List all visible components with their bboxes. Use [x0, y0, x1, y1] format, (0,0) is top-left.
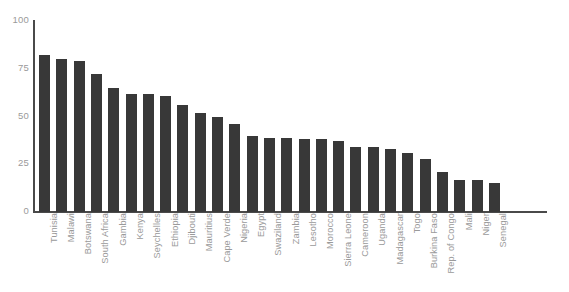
x-axis-label: Nigeria: [239, 213, 250, 243]
bar: [108, 88, 119, 212]
bar: [281, 138, 292, 212]
x-axis-label: Malawi: [66, 213, 77, 242]
bar: [212, 117, 223, 213]
bar: [160, 96, 171, 213]
x-axis-label: Burkina Faso: [429, 213, 440, 268]
x-axis-label: Senegal: [498, 213, 509, 247]
x-axis-label: Mali: [464, 213, 475, 230]
bar: [247, 136, 258, 212]
bar: [74, 61, 85, 212]
y-tick-label-0: 0: [3, 206, 29, 216]
bar: [195, 113, 206, 212]
x-axis-label: Zambia: [291, 213, 302, 244]
bar: [264, 138, 275, 212]
bar: [350, 147, 361, 212]
bar: [368, 147, 379, 212]
x-axis-label: Gambia: [118, 213, 129, 246]
bar: [316, 139, 327, 212]
x-axis-label: Madagascar: [395, 213, 406, 265]
bar: [126, 94, 137, 212]
y-tick-label-100: 100: [3, 15, 29, 25]
bar: [177, 105, 188, 212]
bar-chart: 0255075100 TunisiaMalawiBotswanaSouth Af…: [0, 0, 569, 292]
x-axis-label: Seychelles: [152, 213, 163, 258]
x-axis-label: Djibouti: [187, 213, 198, 244]
bar: [489, 183, 500, 212]
x-axis-label: Rep. of Congo: [446, 213, 457, 274]
x-axis-label: Sierra Leone: [343, 213, 354, 267]
bar: [472, 180, 483, 212]
x-axis-label: Togo: [412, 213, 423, 233]
x-axis-label: Lesotho: [308, 213, 319, 246]
bar: [91, 74, 102, 212]
bar: [229, 124, 240, 212]
x-axis-label: Cameroon: [360, 213, 371, 257]
bar: [56, 59, 67, 212]
y-tick-label-50: 50: [3, 111, 29, 121]
bar-series: [33, 20, 547, 212]
bar: [385, 149, 396, 212]
bar: [39, 55, 50, 212]
bar: [402, 153, 413, 212]
bar: [299, 139, 310, 212]
x-axis-label: Tunisia: [49, 213, 60, 243]
bar: [454, 180, 465, 212]
x-axis-label: Botswana: [83, 213, 94, 254]
x-axis-label: Uganda: [377, 213, 388, 246]
x-axis-label: Cape Verde: [222, 213, 233, 263]
x-axis-label: Egypt: [256, 213, 267, 237]
x-axis-label: Morocco: [325, 213, 336, 249]
y-tick-label-25: 25: [3, 158, 29, 168]
x-axis-label: Swaziland: [273, 213, 284, 256]
x-axis-category-labels: TunisiaMalawiBotswanaSouth AfricaGambiaK…: [33, 213, 547, 292]
x-axis-label: Kenya: [135, 213, 146, 240]
y-axis-tick-labels: 0255075100: [0, 0, 29, 292]
bar: [437, 172, 448, 212]
bar: [333, 141, 344, 212]
x-axis-label: Ethiopia: [170, 213, 181, 247]
bar: [143, 94, 154, 212]
bar: [420, 159, 431, 212]
y-tick-label-75: 75: [3, 63, 29, 73]
x-axis-label: South Africa: [100, 213, 111, 264]
x-axis-label: Mauritius: [204, 213, 215, 251]
x-axis-label: Niger: [481, 213, 492, 235]
